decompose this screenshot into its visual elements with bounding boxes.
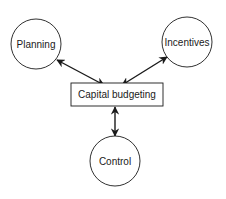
- capital-budgeting-node: Capital budgeting: [71, 83, 163, 106]
- planning-node: Planning: [11, 19, 61, 69]
- control-node: Control: [90, 136, 140, 186]
- capital-budgeting-label: Capital budgeting: [78, 89, 156, 100]
- capital-budgeting-diagram: Planning Incentives Capital budgeting Co…: [0, 0, 226, 199]
- incentives-node: Incentives: [162, 17, 212, 67]
- incentives-budgeting-arrow: [122, 57, 167, 85]
- planning-budgeting-arrow: [57, 60, 104, 85]
- incentives-label: Incentives: [164, 37, 209, 48]
- control-label: Control: [99, 156, 131, 167]
- planning-label: Planning: [17, 39, 56, 50]
